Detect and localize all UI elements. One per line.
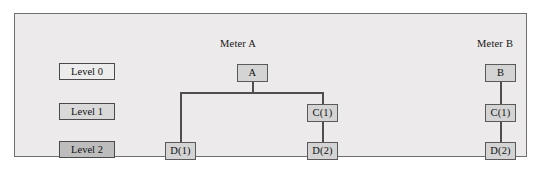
node-meter-b-c1[interactable]: C(1) [485,104,516,122]
legend-item-level-0: Level 0 [59,63,115,80]
node-meter-b-root[interactable]: B [485,64,516,82]
meter-b-title: Meter B [477,38,513,49]
diagram-canvas: Level 0 Level 1 Level 2 Meter A A C(1) D… [0,0,542,172]
legend-item-level-2: Level 2 [59,141,115,158]
connector-bus-to-d1 [180,92,182,142]
node-meter-b-d2[interactable]: D(2) [485,142,516,160]
meter-a-title: Meter A [220,38,256,49]
node-meter-a-d2[interactable]: D(2) [307,142,338,160]
legend-item-level-1: Level 1 [59,103,115,120]
node-meter-a-d1[interactable]: D(1) [165,142,196,160]
connector-b-c1-to-d2 [500,122,502,142]
diagram-frame: Level 0 Level 1 Level 2 Meter A A C(1) D… [14,13,527,157]
connector-a-c1-to-d2 [322,122,324,142]
node-meter-a-root[interactable]: A [237,64,268,82]
connector-bus-to-c1 [322,92,324,104]
connector-b-to-c1 [500,82,502,104]
connector-a-horizontal-bus [180,92,323,94]
node-meter-a-c1[interactable]: C(1) [307,104,338,122]
